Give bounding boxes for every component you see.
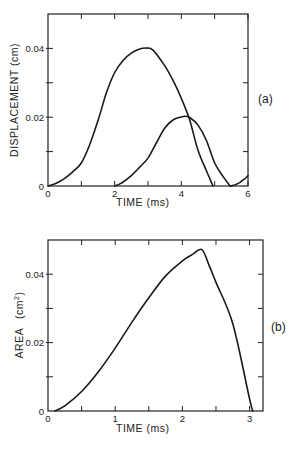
series-area (55, 249, 253, 411)
chart-b-y-axis-label-main: AREA (13, 328, 25, 358)
chart-b-x-axis-label: TIME (ms) (116, 422, 170, 434)
x-tick-label: 0 (45, 188, 50, 199)
x-tick-label: 3 (247, 413, 252, 424)
y-tick-label: 0 (39, 406, 44, 417)
figure: 024600.020.04 TIME (ms) DISPLACEMENT (cm… (0, 0, 297, 451)
chart-b-y-axis-label: AREA (cm2) (13, 292, 25, 359)
x-tick-label: 2 (180, 413, 185, 424)
y-tick-label: 0 (39, 181, 44, 192)
y-tick-label: 0.04 (26, 269, 45, 280)
chart-a-x-axis-label: TIME (ms) (116, 196, 170, 208)
chart-a: 024600.020.04 TIME (ms) DISPLACEMENT (cm… (8, 14, 273, 208)
chart-b: 012300.020.04 TIME (ms) AREA (cm2) (b) (13, 240, 286, 434)
chart-b-panel-label: (b) (271, 320, 286, 334)
chart-b-frame (48, 240, 263, 411)
chart-a-curves (48, 48, 248, 186)
chart-b-tick-labels: 012300.020.04 (26, 269, 253, 424)
x-tick-label: 6 (245, 188, 250, 199)
y-tick-label: 0.04 (26, 43, 45, 54)
chart-a-panel-label: (a) (258, 92, 273, 106)
chart-b-y-axis-label-close: ) (13, 292, 25, 296)
series-curve-3 (230, 176, 248, 186)
chart-b-ticks (46, 240, 263, 411)
chart-a-y-axis-label: DISPLACEMENT (cm) (8, 43, 20, 157)
chart-b-curves (55, 249, 253, 411)
x-tick-label: 4 (179, 188, 184, 199)
y-tick-label: 0.02 (26, 337, 45, 348)
chart-a-frame (48, 14, 248, 186)
y-tick-label: 0.02 (26, 112, 45, 123)
x-tick-label: 0 (45, 413, 50, 424)
chart-b-y-axis-label-unit: (cm (13, 300, 25, 319)
chart-a-tick-labels: 024600.020.04 (26, 43, 251, 199)
series-curve-2 (115, 116, 230, 186)
